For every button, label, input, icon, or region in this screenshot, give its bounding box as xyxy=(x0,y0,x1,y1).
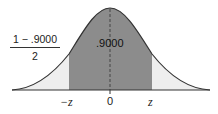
fraction-denominator: 2 xyxy=(10,48,60,62)
tick-label-zero: 0 xyxy=(107,95,113,107)
right-tail-area xyxy=(152,54,210,90)
tail-area-fraction: 1 − .9000 2 xyxy=(10,33,60,62)
tick-label-neg-z: −z xyxy=(60,95,73,110)
central-area-label: .9000 xyxy=(96,37,124,49)
fraction-numerator: 1 − .9000 xyxy=(10,33,60,48)
central-shaded-area xyxy=(69,8,152,90)
tick-label-z: z xyxy=(148,95,153,110)
normal-distribution-chart: 1 − .9000 2 .9000 −z 0 z xyxy=(0,0,218,114)
